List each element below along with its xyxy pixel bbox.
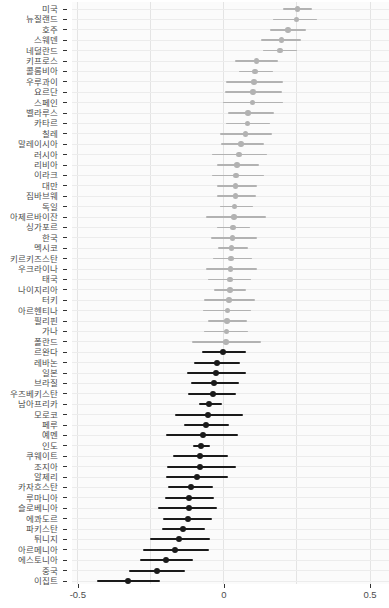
y-axis-tick <box>63 165 67 166</box>
y-axis-tick <box>63 539 67 540</box>
country-label: 에스토니아 <box>0 555 58 565</box>
y-axis-tick <box>63 206 67 207</box>
point-estimate-dot <box>220 349 226 355</box>
horizontal-gridline <box>72 61 389 62</box>
y-axis-tick <box>63 258 67 259</box>
point-estimate-dot <box>250 100 256 106</box>
country-label: 키프로스 <box>0 56 58 66</box>
country-label: 이라크 <box>0 170 58 180</box>
country-label: 브라질 <box>0 378 58 388</box>
country-label: 리비아 <box>0 160 58 170</box>
point-estimate-dot <box>285 27 291 33</box>
point-estimate-dot <box>224 318 230 324</box>
y-axis-tick <box>63 581 67 582</box>
horizontal-gridline <box>72 40 389 41</box>
point-estimate-dot <box>197 453 203 459</box>
country-label: 태국 <box>0 274 58 284</box>
horizontal-gridline <box>72 487 389 488</box>
y-axis-tick <box>63 352 67 353</box>
point-estimate-dot <box>245 121 251 127</box>
horizontal-gridline <box>72 518 389 519</box>
country-label: 루마니아 <box>0 493 58 503</box>
country-label: 스페인 <box>0 98 58 108</box>
country-label: 카타르 <box>0 118 58 128</box>
confidence-interval-bar <box>228 112 274 114</box>
point-estimate-dot <box>228 266 234 272</box>
point-estimate-dot <box>279 37 285 43</box>
y-axis-tick <box>63 237 67 238</box>
country-label: 남아프리카 <box>0 399 58 409</box>
country-label: 우즈베키스탄 <box>0 389 58 399</box>
y-axis-tick <box>63 196 67 197</box>
point-estimate-dot <box>226 297 232 303</box>
country-label: 파키스탄 <box>0 524 58 534</box>
y-axis-tick <box>63 123 67 124</box>
point-estimate-dot <box>154 568 160 574</box>
y-axis-tick <box>63 331 67 332</box>
y-axis-tick <box>63 383 67 384</box>
y-axis-tick <box>63 29 67 30</box>
y-axis-tick <box>63 19 67 20</box>
country-label: 폴란드 <box>0 337 58 347</box>
country-label: 칠레 <box>0 129 58 139</box>
country-label: 러시아 <box>0 150 58 160</box>
country-label: 호주 <box>0 25 58 35</box>
country-label: 카자흐스탄 <box>0 482 58 492</box>
point-estimate-dot <box>198 443 204 449</box>
y-axis-tick <box>63 289 67 290</box>
horizontal-gridline <box>72 477 389 478</box>
country-label: 짐바브웨 <box>0 191 58 201</box>
y-axis-tick <box>63 414 67 415</box>
point-estimate-dot <box>163 557 169 563</box>
point-estimate-dot <box>210 391 216 397</box>
country-label: 이집트 <box>0 576 58 586</box>
country-label: 아르헨티나 <box>0 306 58 316</box>
point-estimate-dot <box>176 536 182 542</box>
point-estimate-dot <box>185 516 191 522</box>
horizontal-gridline <box>72 570 389 571</box>
horizontal-gridline <box>72 29 389 30</box>
y-axis-tick <box>63 477 67 478</box>
y-axis-tick <box>63 487 67 488</box>
point-estimate-dot <box>233 183 239 189</box>
y-axis-tick <box>63 227 67 228</box>
point-estimate-dot <box>172 547 178 553</box>
horizontal-gridline <box>72 404 389 405</box>
y-axis-tick <box>63 279 67 280</box>
country-label: 쿠웨이트 <box>0 451 58 461</box>
point-estimate-dot <box>180 526 186 532</box>
point-estimate-dot <box>250 89 256 95</box>
x-axis-tick <box>78 584 79 588</box>
country-label: 나이지리아 <box>0 285 58 295</box>
country-label: 레바논 <box>0 358 58 368</box>
horizontal-gridline <box>72 549 389 550</box>
y-axis-tick <box>63 300 67 301</box>
y-axis-tick <box>63 393 67 394</box>
y-axis-tick <box>63 113 67 114</box>
y-axis-tick <box>63 310 67 311</box>
y-axis-tick <box>63 435 67 436</box>
y-axis-tick <box>63 61 67 62</box>
y-axis-tick <box>63 40 67 41</box>
horizontal-gridline <box>72 539 389 540</box>
x-axis-tick <box>370 584 371 588</box>
country-label: 독일 <box>0 202 58 212</box>
country-label: 슬로베니아 <box>0 503 58 513</box>
y-axis-tick <box>63 144 67 145</box>
point-estimate-dot <box>252 69 258 75</box>
country-label: 아제르바이잔 <box>0 212 58 222</box>
country-label: 튀니지 <box>0 534 58 544</box>
country-label: 터키 <box>0 295 58 305</box>
point-estimate-dot <box>214 360 220 366</box>
point-estimate-dot <box>254 58 260 64</box>
country-label: 말레이시아 <box>0 139 58 149</box>
country-label: 조지아 <box>0 462 58 472</box>
y-axis-tick <box>63 570 67 571</box>
point-estimate-dot <box>225 308 231 314</box>
point-estimate-dot <box>232 204 238 210</box>
y-axis-tick <box>63 529 67 530</box>
country-label: 키르키즈스탄 <box>0 254 58 264</box>
y-axis-tick <box>63 133 67 134</box>
point-estimate-dot <box>203 422 209 428</box>
country-label: 아르메니아 <box>0 545 58 555</box>
